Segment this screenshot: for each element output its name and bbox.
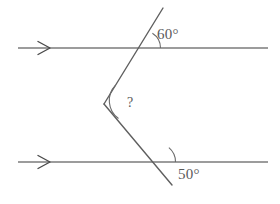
angle-arc-bottom <box>169 148 176 162</box>
angle-label-unknown: ? <box>127 96 134 110</box>
geometry-canvas <box>0 0 280 204</box>
angle-label-bottom: 50° <box>178 167 200 182</box>
transversal-lower-segment <box>104 104 172 185</box>
angle-label-top: 60° <box>157 27 179 42</box>
transversal-upper-segment <box>104 8 163 104</box>
angle-arc-unknown <box>109 85 118 118</box>
geometry-diagram: 60° ? 50° <box>0 0 280 204</box>
